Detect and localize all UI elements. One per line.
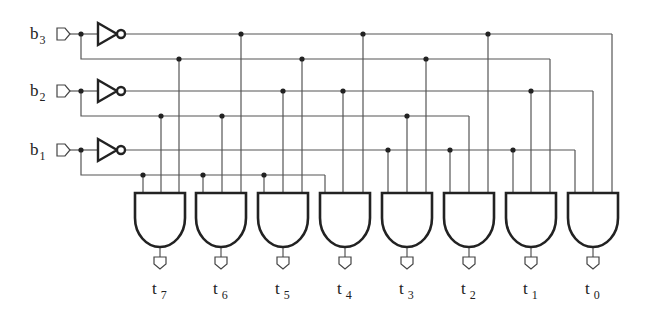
- and-gate-t1: [506, 193, 556, 247]
- true-line-b3: [81, 34, 550, 59]
- output-label-t3: t3: [399, 279, 414, 302]
- output-label-t4: t4: [337, 279, 352, 302]
- junction-dot: [219, 113, 224, 118]
- junction-dot: [158, 113, 163, 118]
- junction-dot: [78, 88, 83, 93]
- output-label-subscript: 4: [346, 288, 352, 302]
- output-label-t2: t2: [461, 279, 476, 302]
- output-label-t5: t5: [275, 279, 290, 302]
- output-label-t7: t7: [152, 279, 167, 302]
- junction-dot: [385, 147, 390, 152]
- output-label-subscript: 5: [284, 288, 290, 302]
- input-label-subscript: 2: [40, 90, 46, 104]
- and-gate-t3: [382, 193, 432, 247]
- input-pin-icon: [57, 144, 70, 156]
- output-label-subscript: 1: [532, 288, 538, 302]
- output-label-subscript: 3: [408, 288, 414, 302]
- inverter-bubble-icon: [117, 87, 125, 95]
- and-gate-t6: [196, 193, 246, 247]
- output-label-t0: t0: [585, 279, 600, 302]
- junction-dot: [404, 113, 409, 118]
- output-pin-icon: [401, 257, 413, 269]
- output-label-subscript: 6: [222, 288, 228, 302]
- junction-dot: [299, 56, 304, 61]
- output-label-t6: t6: [213, 279, 228, 302]
- junction-dot: [528, 88, 533, 93]
- junction-dot: [261, 172, 266, 177]
- junction-dot: [280, 88, 285, 93]
- junction-dot: [238, 31, 243, 36]
- input-label-subscript: 1: [40, 149, 46, 163]
- inverter-icon: [98, 80, 117, 102]
- inputs-layer: b3b2b1: [30, 23, 125, 163]
- output-label-t1: t1: [523, 279, 538, 302]
- input-pin-icon: [57, 28, 70, 40]
- input-label-subscript: 3: [40, 33, 46, 47]
- junction-dot: [423, 56, 428, 61]
- inverter-icon: [98, 139, 117, 161]
- inverter-icon: [98, 23, 117, 45]
- output-pin-icon: [339, 257, 351, 269]
- output-pin-icon: [463, 257, 475, 269]
- junction-dot: [340, 88, 345, 93]
- output-pin-icon: [587, 257, 599, 269]
- junction-dot: [360, 31, 365, 36]
- output-pin-icon: [215, 257, 227, 269]
- input-pin-icon: [57, 85, 70, 97]
- output-pin-icon: [277, 257, 289, 269]
- inverter-bubble-icon: [117, 146, 125, 154]
- input-label-b1: b1: [30, 140, 46, 163]
- decoder-circuit-diagram: b3b2b1 t7t6t5t4t3t2t1t0: [0, 0, 649, 318]
- and-gate-t5: [258, 193, 308, 247]
- junction-dot: [447, 147, 452, 152]
- true-line-b2: [81, 91, 469, 116]
- and-gate-t7: [135, 193, 185, 247]
- output-label-subscript: 7: [161, 288, 167, 302]
- and-gate-t2: [444, 193, 494, 247]
- output-pin-icon: [154, 257, 166, 269]
- output-pin-icon: [525, 257, 537, 269]
- and-gate-t4: [320, 193, 370, 247]
- junction-dot: [200, 172, 205, 177]
- inverter-bubble-icon: [117, 30, 125, 38]
- output-label-subscript: 0: [594, 288, 600, 302]
- input-label-b3: b3: [30, 24, 46, 47]
- and-gate-t0: [568, 193, 618, 247]
- junction-dot: [140, 172, 145, 177]
- junction-dot: [485, 31, 490, 36]
- junction-dot: [78, 147, 83, 152]
- output-label-subscript: 2: [470, 288, 476, 302]
- gates-layer: t7t6t5t4t3t2t1t0: [135, 193, 618, 302]
- junction-dot: [176, 56, 181, 61]
- junction-dot: [78, 31, 83, 36]
- junction-dot: [510, 147, 515, 152]
- junction-dots-layer: [78, 31, 533, 177]
- input-label-b2: b2: [30, 81, 46, 104]
